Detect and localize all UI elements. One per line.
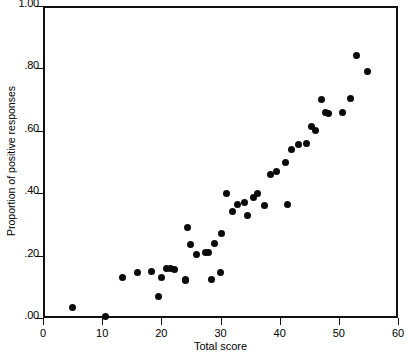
data-point: [211, 240, 218, 247]
data-point: [353, 52, 360, 59]
data-point: [282, 159, 289, 166]
data-point: [158, 274, 165, 281]
data-point: [155, 293, 162, 300]
data-point: [171, 266, 178, 273]
x-tick-label: 50: [333, 327, 345, 339]
data-point: [148, 268, 155, 275]
x-tick-label: 40: [274, 327, 286, 339]
data-point: [218, 230, 225, 237]
data-point: [134, 269, 141, 276]
data-point: [325, 110, 332, 117]
y-tick-label: .20: [24, 248, 39, 259]
data-point: [205, 249, 212, 256]
y-tick-label: .40: [24, 185, 39, 196]
scatter-plot-figure: .00.20.40.60.801.00 0102030405060 Propor…: [0, 0, 412, 360]
data-point: [339, 109, 346, 116]
data-point: [193, 251, 200, 258]
data-point: [223, 190, 230, 197]
data-point: [288, 146, 295, 153]
x-tick-mark: [339, 318, 340, 325]
x-tick-mark: [221, 318, 222, 325]
y-tick-label: .80: [24, 60, 39, 71]
data-point: [187, 241, 194, 248]
data-point: [364, 68, 371, 75]
x-tick-mark: [398, 318, 399, 325]
x-tick-label: 20: [155, 327, 167, 339]
y-axis-label: Proportion of positive responses: [4, 38, 18, 283]
data-point: [295, 141, 302, 148]
data-point: [119, 274, 126, 281]
data-point: [182, 276, 189, 283]
plot-area: .00.20.40.60.801.00 0102030405060: [43, 6, 398, 318]
x-tick-label: 30: [214, 327, 226, 339]
data-point: [184, 224, 191, 231]
data-point: [312, 127, 319, 134]
data-point: [284, 201, 291, 208]
data-point: [69, 304, 76, 311]
x-tick-mark: [280, 318, 281, 325]
y-tick-label: .60: [24, 123, 39, 134]
data-point: [241, 199, 248, 206]
data-point: [303, 140, 310, 147]
x-tick-mark: [161, 318, 162, 325]
x-tick-label: 0: [40, 327, 46, 339]
y-tick-label: 1.00: [18, 0, 39, 9]
data-point: [254, 190, 261, 197]
data-point: [347, 95, 354, 102]
data-point: [229, 208, 236, 215]
x-tick-mark: [102, 318, 103, 325]
data-point: [273, 168, 280, 175]
data-point: [261, 202, 268, 209]
data-point: [217, 269, 224, 276]
data-point: [208, 276, 215, 283]
x-tick-mark: [43, 318, 44, 325]
x-tick-label: 60: [392, 327, 404, 339]
y-tick-label: .00: [24, 310, 39, 321]
y-axis-label-text: Proportion of positive responses: [5, 86, 17, 236]
x-tick-label: 10: [96, 327, 108, 339]
data-point: [318, 96, 325, 103]
x-axis-label: Total score: [43, 340, 398, 352]
data-point: [244, 212, 251, 219]
